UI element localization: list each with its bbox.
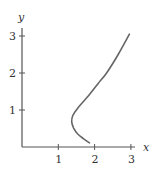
y-tick-label: 3 — [9, 30, 16, 43]
data-curve — [72, 34, 130, 143]
x-tick-label: 1 — [55, 153, 62, 166]
y-tick-label: 1 — [9, 104, 16, 117]
chart: 123 123 x y — [0, 0, 159, 175]
y-axis-label: y — [17, 11, 25, 24]
x-axis-label: x — [143, 141, 150, 154]
x-tick-label: 3 — [128, 153, 135, 166]
y-tick-label: 2 — [9, 67, 16, 80]
x-tick-label: 2 — [92, 153, 99, 166]
